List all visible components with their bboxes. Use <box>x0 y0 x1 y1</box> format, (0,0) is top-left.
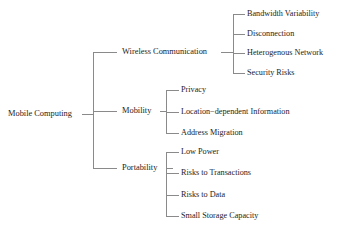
branch-node-label-1: Mobility <box>122 106 152 115</box>
tree-canvas: Mobile ComputingWireless CommunicationBa… <box>0 0 359 236</box>
leaf-node-label-2-0: Low Power <box>181 147 219 156</box>
leaf-node-label-1-0: Privacy <box>181 85 207 94</box>
leaf-node-label-0-3: Security Risks <box>247 68 295 77</box>
leaf-node-label-2-2: Risks to Data <box>181 190 225 199</box>
leaf-node-label-0-0: Bandwidth Variability <box>247 9 320 18</box>
branch-node-label-0: Wireless Communication <box>122 47 208 56</box>
leaf-node-label-0-2: Heterogenous Network <box>247 48 324 57</box>
tree-diagram: Mobile ComputingWireless CommunicationBa… <box>0 0 359 236</box>
leaf-node-label-1-1: Location−dependent Information <box>181 107 290 116</box>
branch-node-label-2: Portability <box>122 163 158 172</box>
leaf-node-label-0-1: Disconnection <box>247 29 294 38</box>
root-node-label: Mobile Computing <box>8 109 73 118</box>
leaf-node-label-2-1: Risks to Transactions <box>181 168 251 177</box>
leaf-node-label-2-3: Small Storage Capacity <box>181 211 259 220</box>
leaf-node-label-1-2: Address Migration <box>181 128 243 137</box>
